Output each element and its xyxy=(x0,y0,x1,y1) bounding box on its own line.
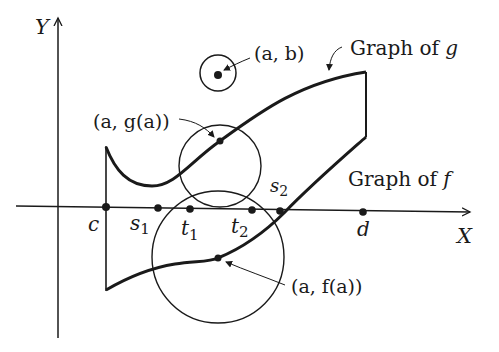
label-s2: s2 xyxy=(270,175,288,199)
label-afa: (a, f(a)) xyxy=(291,275,362,297)
point-t2 xyxy=(248,206,256,214)
diagram-svg: Y X c s1 t1 t2 s2 d (a, b) (a, g(a)) (a,… xyxy=(0,0,499,352)
arrow-ab xyxy=(224,58,250,70)
point-s2 xyxy=(276,207,284,215)
point-ab xyxy=(214,71,222,79)
point-t1 xyxy=(186,205,194,213)
label-t2: t2 xyxy=(231,214,249,241)
label-d: d xyxy=(357,217,370,241)
x-axis xyxy=(16,206,470,212)
label-ab: (a, b) xyxy=(254,42,304,64)
arrow-aga xyxy=(179,119,214,137)
diagram-canvas: Y X c s1 t1 t2 s2 d (a, b) (a, g(a)) (a,… xyxy=(0,0,499,352)
label-graph-f: Graph of f xyxy=(348,167,454,191)
point-c xyxy=(102,203,110,211)
label-c: c xyxy=(88,212,99,236)
label-s1: s1 xyxy=(130,211,150,238)
point-s1 xyxy=(154,204,162,212)
arrow-graph-g xyxy=(329,47,342,70)
point-afa xyxy=(215,255,222,262)
x-axis-label: X xyxy=(455,224,473,248)
point-d xyxy=(359,208,367,216)
label-t1: t1 xyxy=(181,216,199,244)
arrow-afa xyxy=(226,262,285,285)
label-aga: (a, g(a)) xyxy=(93,110,170,132)
point-aga xyxy=(217,138,224,145)
label-graph-g: Graph of g xyxy=(350,36,458,60)
y-axis-label: Y xyxy=(35,15,51,39)
